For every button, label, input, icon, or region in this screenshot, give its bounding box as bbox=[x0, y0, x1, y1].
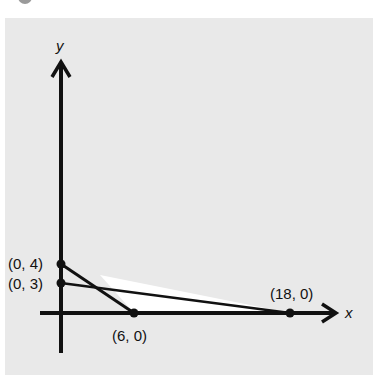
label-6-0: (6, 0) bbox=[112, 327, 147, 344]
x-axis-label: x bbox=[344, 304, 353, 321]
y-axis-label: y bbox=[55, 37, 65, 54]
graph-svg: y x (0, 4) (0, 3) (6, 0) (18, 0) bbox=[0, 0, 377, 384]
point-0-4 bbox=[57, 260, 66, 269]
label-0-4: (0, 4) bbox=[8, 255, 43, 272]
point-0-3 bbox=[57, 279, 66, 288]
label-0-3: (0, 3) bbox=[8, 275, 43, 292]
region-between-lines bbox=[100, 275, 290, 313]
point-6-0 bbox=[130, 309, 139, 318]
point-18-0 bbox=[286, 309, 295, 318]
label-18-0: (18, 0) bbox=[270, 285, 313, 302]
